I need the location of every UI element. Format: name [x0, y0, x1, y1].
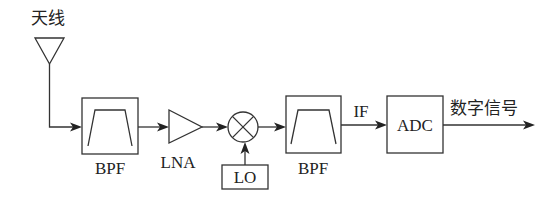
connector-antenna-bpf1	[50, 64, 83, 132]
lo-block: LO	[222, 165, 268, 189]
antenna: 天线	[31, 8, 65, 64]
antenna-label: 天线	[31, 8, 65, 28]
adc-block: ADC	[387, 96, 443, 153]
receiver-block-diagram: 天线 BPF LNA LO	[0, 0, 558, 204]
bpf1-block: BPF	[82, 98, 138, 178]
lna-label: LNA	[161, 153, 197, 172]
bpf1-label: BPF	[95, 159, 125, 178]
bpf2-block: BPF	[286, 96, 341, 178]
connector-adc-output: 数字信号	[443, 98, 535, 130]
mixer-block	[228, 112, 258, 142]
connector-lna-mixer	[202, 123, 228, 132]
lo-label: LO	[234, 168, 257, 187]
amplifier-icon	[169, 110, 202, 143]
adc-label: ADC	[397, 116, 433, 135]
connector-bpf2-adc: IF	[341, 102, 387, 130]
if-label: IF	[353, 102, 368, 121]
antenna-icon	[35, 38, 64, 64]
output-label: 数字信号	[450, 98, 518, 118]
connector-lo-mixer	[241, 142, 250, 165]
connector-bpf1-lna	[138, 123, 169, 132]
bpf2-label: BPF	[298, 159, 328, 178]
connector-mixer-bpf2	[258, 123, 286, 132]
lna-block: LNA	[161, 110, 202, 172]
